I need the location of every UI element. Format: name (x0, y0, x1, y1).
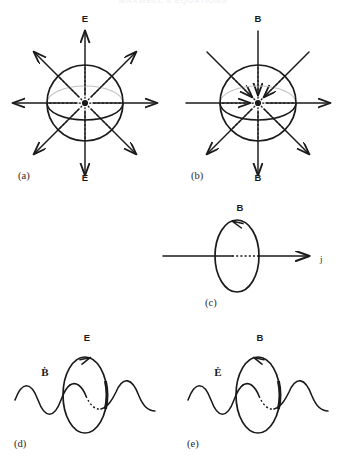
panel-c-label: (c) (205, 297, 217, 309)
panel-a-top-label: E (82, 13, 88, 24)
wave-right (101, 381, 155, 411)
panel-c: B j (c) (163, 202, 323, 309)
panel-c-current-label: j (319, 254, 323, 264)
sphere-center-point (255, 100, 261, 106)
panel-b: B B (b) (186, 13, 330, 183)
panel-e: B Ė (e) (187, 332, 328, 450)
wave-left (188, 385, 243, 414)
wave-hidden (86, 396, 101, 409)
figure-canvas: E E (a) (0, 0, 346, 464)
wave-right (274, 381, 328, 411)
panel-d: E Ḃ (d) (14, 332, 155, 450)
panel-e-source-label: Ė (214, 366, 221, 378)
sphere-center-point (82, 100, 88, 106)
panel-b-bottom-label: B (255, 172, 262, 183)
panel-e-field-label: B (257, 332, 264, 343)
loop-circulation-arrow (233, 221, 244, 228)
maxwell-equations-figure: MAXWELL'S EQUATIONS (0, 0, 346, 464)
wave-inside-visible (243, 384, 259, 396)
panel-b-top-label: B (255, 13, 262, 24)
panel-d-label: (d) (14, 438, 27, 450)
loop-circulation-arrow (80, 357, 91, 364)
wave-left (15, 385, 70, 414)
panel-a: E E (a) (13, 13, 157, 183)
panel-a-label: (a) (18, 170, 30, 182)
induction-loop-front-limb (105, 381, 107, 409)
induction-loop-front-limb (278, 381, 280, 409)
wave-hidden (259, 396, 274, 409)
panel-d-source-label: Ḃ (41, 366, 49, 378)
panel-e-label: (e) (187, 438, 199, 450)
wave-inside-visible (70, 384, 86, 396)
panel-d-field-label: E (84, 332, 90, 343)
panel-a-bottom-label: E (82, 172, 88, 183)
panel-b-label: (b) (191, 170, 204, 182)
panel-c-field-label: B (237, 202, 244, 213)
